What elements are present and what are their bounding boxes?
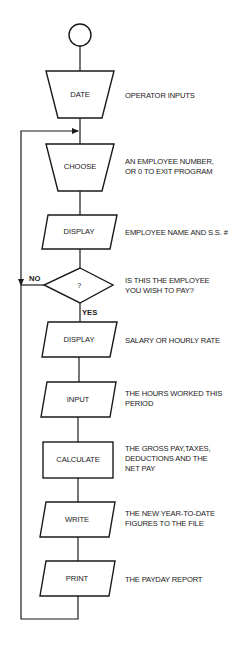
step-description: EMPLOYEE NAME AND S.S. # [125, 228, 229, 237]
step-description-line-2: PERIOD [125, 399, 154, 408]
step-label: WRITE [65, 515, 89, 524]
step-description-line-2: FIGURES TO THE FILE [125, 519, 204, 528]
no-branch-label: NO [29, 274, 40, 283]
step-display-rate: DISPLAY SALARY OR HOURLY RATE [42, 322, 220, 357]
step-decision: ? IS THIS THE EMPLOYEE YOU WISH TO PAY? … [29, 268, 210, 317]
step-label: PRINT [66, 574, 89, 583]
step-description-line-1: IS THIS THE EMPLOYEE [125, 276, 210, 285]
step-write: WRITE THE NEW YEAR-TO-DATE FIGURES TO TH… [40, 502, 215, 537]
step-calculate: CALCULATE THE GROSS PAY,TAXES, DEDUCTION… [43, 442, 211, 478]
step-description-line-2: DEDUCTIONS AND THE [125, 454, 207, 463]
step-description: THE PAYDAY REPORT [125, 575, 203, 584]
step-label: DISPLAY [64, 227, 95, 236]
yes-branch-label: YES [82, 308, 97, 317]
step-description-line-1: THE HOURS WORKED THIS [125, 389, 222, 398]
step-label: DISPLAY [64, 335, 95, 344]
step-description-line-1: THE GROSS PAY,TAXES, [125, 444, 211, 453]
step-description-line-2: YOU WISH TO PAY? [125, 286, 194, 295]
decision-question-mark: ? [77, 281, 81, 290]
step-description: OPERATOR INPUTS [125, 91, 195, 100]
step-choose: CHOOSE AN EMPLOYEE NUMBER, OR 0 TO EXIT … [46, 144, 214, 191]
step-print: PRINT THE PAYDAY REPORT [40, 561, 203, 596]
step-label: DATE [70, 90, 89, 99]
step-description-line-2: OR 0 TO EXIT PROGRAM [125, 167, 212, 176]
step-label: CHOOSE [64, 162, 96, 171]
step-description-line-3: NET PAY [125, 464, 155, 473]
step-description-line-1: THE NEW YEAR-TO-DATE [125, 509, 215, 518]
step-input-hours: INPUT THE HOURS WORKED THIS PERIOD [41, 382, 222, 417]
step-display-name: DISPLAY EMPLOYEE NAME AND S.S. # [42, 215, 229, 249]
step-label: INPUT [67, 395, 90, 404]
start-terminal-circle [69, 24, 91, 46]
loop-back-connector [21, 131, 78, 619]
step-date: DATE OPERATOR INPUTS [46, 71, 195, 118]
flowchart: DATE OPERATOR INPUTS CHOOSE AN EMPLOYEE … [0, 0, 242, 650]
step-description: SALARY OR HOURLY RATE [125, 336, 220, 345]
step-label: CALCULATE [56, 455, 99, 464]
step-description-line-1: AN EMPLOYEE NUMBER, [125, 157, 214, 166]
